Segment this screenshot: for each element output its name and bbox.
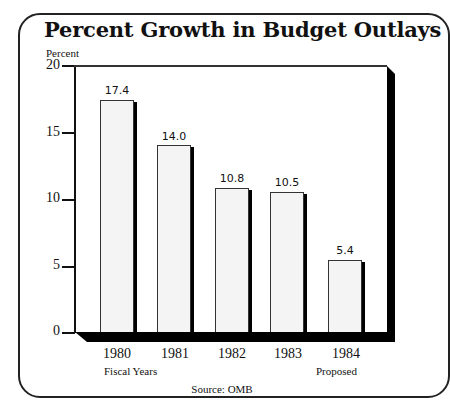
chart-title: Percent Growth in Budget Outlays bbox=[44, 17, 441, 42]
x-category-label: 1983 bbox=[263, 346, 313, 362]
bar-shadow bbox=[249, 190, 252, 332]
bar-value-label: 14.0 bbox=[154, 130, 194, 143]
bar-shadow bbox=[362, 262, 365, 332]
x-category-label: 1981 bbox=[150, 346, 200, 362]
x-axis-label: Fiscal Years bbox=[104, 365, 157, 377]
y-tick-label: 20 bbox=[34, 58, 60, 72]
bar-value-label: 5.4 bbox=[325, 244, 365, 257]
y-tick-label: 10 bbox=[34, 191, 60, 205]
plot-top-edge bbox=[74, 65, 387, 67]
y-tick-label: 5 bbox=[34, 258, 60, 272]
plot-floor bbox=[75, 332, 395, 342]
bar-value-label: 10.5 bbox=[267, 176, 307, 189]
bar-shadow bbox=[304, 194, 307, 332]
bar-1982 bbox=[215, 188, 249, 332]
y-tick-label: 0 bbox=[34, 324, 60, 338]
bar-1984 bbox=[328, 260, 362, 332]
bar-value-label: 10.8 bbox=[212, 172, 252, 185]
x-category-label: 1982 bbox=[207, 346, 257, 362]
bar-shadow bbox=[134, 102, 137, 332]
y-tick-label: 15 bbox=[34, 125, 60, 139]
x-category-label: 1984 bbox=[321, 346, 371, 362]
source-note: Source: OMB bbox=[0, 383, 444, 395]
x-category-label: 1980 bbox=[92, 346, 142, 362]
bar-shadow bbox=[191, 147, 194, 332]
bar-value-label: 17.4 bbox=[97, 84, 137, 97]
bar-1981 bbox=[157, 145, 191, 332]
bar-1983 bbox=[270, 192, 304, 332]
plot-right-wall bbox=[387, 66, 395, 342]
proposed-note: Proposed bbox=[316, 365, 357, 377]
y-axis bbox=[74, 65, 76, 333]
bar-1980 bbox=[100, 100, 134, 332]
